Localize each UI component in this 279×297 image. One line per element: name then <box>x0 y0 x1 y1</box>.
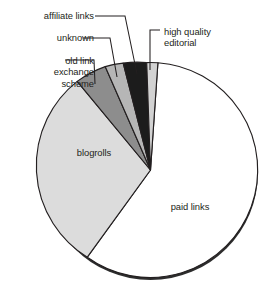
slice-label-high-quality-editorial: high quality editorial <box>164 26 274 49</box>
pie-chart-figure: affiliate links unknown old link exchang… <box>0 0 279 297</box>
slice-label-unknown: unknown <box>24 32 94 43</box>
slice-label-blogrolls: blogrolls <box>62 147 126 158</box>
slice-label-paid-links: paid links <box>155 201 225 212</box>
slice-label-affiliate-links: affiliate links <box>24 10 94 21</box>
slice-label-old-link-exchange-scheme: old link exchange scheme <box>8 55 94 89</box>
